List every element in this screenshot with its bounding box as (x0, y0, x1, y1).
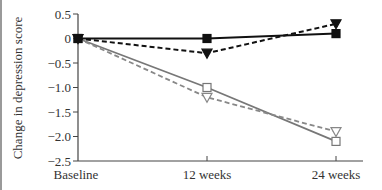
y-tick-label: −2.0 (47, 129, 71, 144)
line-chart: 0.50−0.5−1.0−1.5−2.0−2.5Baseline12 weeks… (0, 0, 382, 190)
y-tick-label: 0.5 (55, 7, 71, 22)
y-axis-title: Change in depression score (10, 16, 25, 159)
filled-square-marker (203, 35, 211, 43)
open-square-marker (203, 84, 211, 92)
x-tick-label: 24 weeks (312, 167, 361, 182)
y-tick-label: −0.5 (47, 56, 71, 71)
series-layer (73, 20, 341, 146)
x-tick-label: 12 weeks (183, 167, 232, 182)
open-triangle-marker (331, 128, 341, 137)
y-tick-label: 0 (65, 31, 72, 46)
filled-triangle-marker (202, 49, 212, 58)
y-tick-label: −1.0 (47, 80, 71, 95)
filled-square-marker (332, 30, 340, 38)
x-tick-label: Baseline (54, 167, 99, 182)
open-square-marker (332, 137, 340, 145)
y-tick-label: −1.5 (47, 105, 71, 120)
